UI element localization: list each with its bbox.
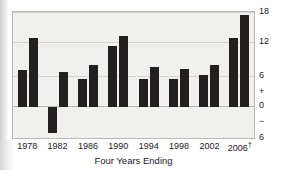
bar-2002-left [199,75,208,107]
bar-group [43,12,73,138]
bar-1982-left [48,107,57,133]
x-tick-label: 1986 [73,141,103,154]
y-tick-0: 0 [259,101,264,110]
bar-1986-left [78,79,87,107]
bar-1982-right [59,72,68,106]
y-axis: 18 12 6 + 0 − 6 [259,0,281,155]
bar-2006-left [229,38,238,106]
bar-1978-left [18,70,27,107]
x-tick-label: 2006† [225,141,255,154]
bar-group [134,12,164,138]
bar-1978-right [29,38,38,106]
positive-sign-marker: + [259,87,264,96]
bar-group [224,12,254,138]
bar-1994-left [139,79,148,106]
x-tick-label: 1982 [42,141,72,154]
x-axis: 19781982198619901994199820022006† [12,141,255,154]
x-tick-label: 1990 [103,141,133,154]
bar-group [164,12,194,138]
bar-series-container [13,12,254,138]
bar-1998-left [169,79,178,106]
bar-2002-right [210,65,219,107]
y-tick-18: 18 [259,7,269,16]
bar-group [73,12,103,138]
x-tick-label: 1978 [12,141,42,154]
bar-1994-right [150,67,159,106]
x-tick-label: 2002 [194,141,224,154]
bar-group [103,12,133,138]
x-axis-title: Four Years Ending [12,155,255,166]
bar-group [194,12,224,138]
bar-1990-right [119,36,128,107]
bar-group [13,12,43,138]
x-tick-label: 1994 [134,141,164,154]
y-tick-12: 12 [259,37,269,46]
y-tick-6: 6 [259,71,264,80]
bar-1990-left [108,46,117,106]
x-tick-label: 1998 [164,141,194,154]
chart-page: 18 12 6 + 0 − 6 197819821986199019941998… [0,0,281,170]
plot-area [12,11,255,139]
y-tick-minus-6: 6 [259,133,264,142]
bar-2006-right [240,15,249,107]
negative-sign-marker: − [259,117,264,126]
bar-1998-right [180,69,189,107]
bar-1986-right [89,65,98,107]
